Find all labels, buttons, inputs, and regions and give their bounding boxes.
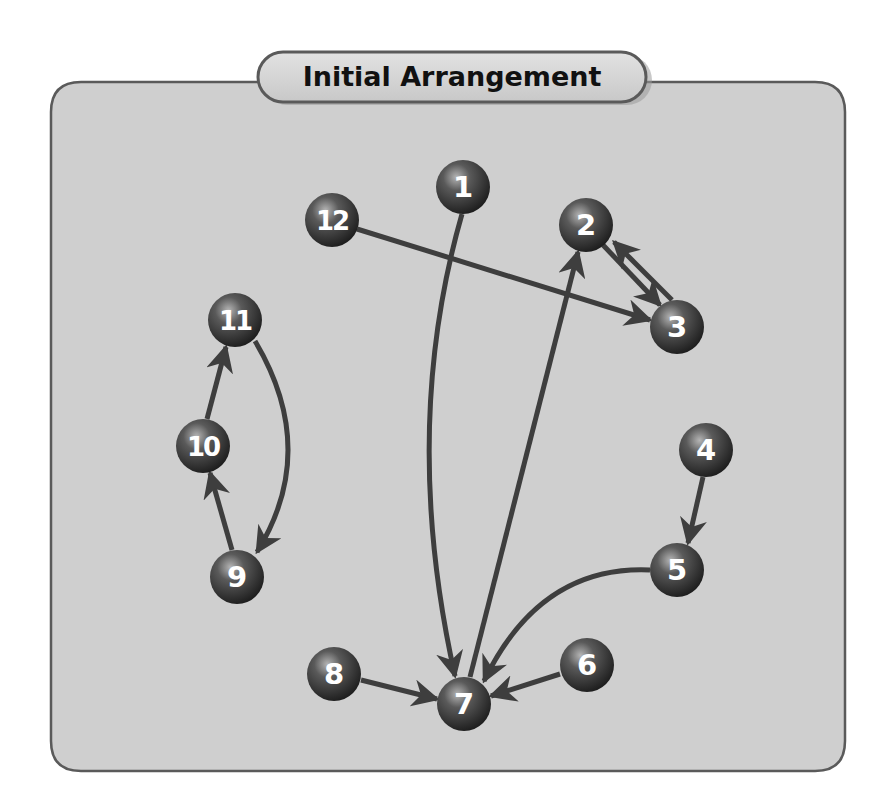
node-label: 10: [187, 432, 220, 462]
node-label: 11: [219, 306, 252, 336]
node-3: 3: [650, 300, 704, 354]
node-label: 4: [696, 433, 716, 467]
node-8: 8: [307, 647, 361, 701]
node-label: 5: [667, 553, 687, 587]
node-5: 5: [650, 543, 704, 597]
node-label: 1: [453, 170, 473, 204]
node-12: 12: [305, 193, 359, 247]
node-6: 6: [560, 638, 614, 692]
node-label: 3: [667, 310, 687, 344]
node-7: 7: [437, 677, 491, 731]
node-label: 9: [227, 560, 247, 594]
node-1: 1: [436, 160, 490, 214]
node-label: 7: [454, 687, 474, 721]
diagram-title: Initial Arrangement: [303, 61, 602, 92]
node-label: 2: [576, 208, 596, 242]
node-label: 12: [316, 206, 348, 236]
node-label: 6: [577, 648, 597, 682]
node-2: 2: [559, 198, 613, 252]
node-label: 8: [324, 657, 344, 691]
diagram-canvas: Initial Arrangement 123456789101112: [0, 0, 888, 808]
title-badge: Initial Arrangement: [258, 52, 652, 105]
node-11: 11: [208, 293, 262, 347]
node-4: 4: [679, 423, 733, 477]
node-10: 10: [176, 419, 230, 473]
node-9: 9: [210, 550, 264, 604]
